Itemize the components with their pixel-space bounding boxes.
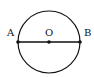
label-b: B — [84, 27, 91, 38]
point-a — [16, 40, 20, 44]
circle-diagram: A O B — [0, 0, 94, 77]
point-b — [78, 40, 82, 44]
label-a: A — [6, 27, 15, 38]
label-o: O — [45, 27, 53, 38]
point-o — [47, 40, 51, 44]
